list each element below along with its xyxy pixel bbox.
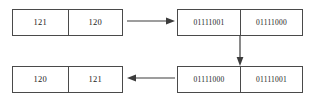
arrow-right-icon bbox=[127, 15, 175, 27]
decimal-cell: 121 bbox=[68, 67, 123, 92]
decimal-cell: 121 bbox=[13, 10, 68, 35]
binary-cell: 01111001 bbox=[240, 67, 302, 92]
byte-swap-diagram: 121 120 01111001 01111000 120 121 011110… bbox=[0, 0, 315, 104]
binary-cell: 01111000 bbox=[178, 67, 240, 92]
binary-box-top-right: 01111001 01111000 bbox=[177, 9, 303, 36]
binary-cell: 01111001 bbox=[178, 10, 240, 35]
decimal-cell: 120 bbox=[68, 10, 123, 35]
decimal-cell: 120 bbox=[13, 67, 68, 92]
arrow-left-icon bbox=[127, 72, 175, 84]
decimal-box-bottom-left: 120 121 bbox=[12, 66, 123, 93]
decimal-box-top-left: 121 120 bbox=[12, 9, 123, 36]
binary-box-bottom-right: 01111000 01111001 bbox=[177, 66, 303, 93]
arrow-down-icon bbox=[234, 36, 246, 66]
binary-cell: 01111000 bbox=[240, 10, 302, 35]
